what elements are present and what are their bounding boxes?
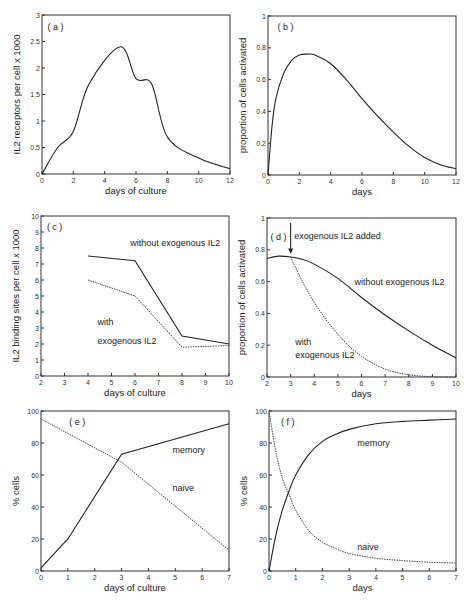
y-tick-label: 40	[31, 504, 39, 511]
x-tick-label: 10	[452, 380, 460, 387]
y-tick-label: 0.8	[255, 246, 265, 253]
y-tick-label: 100	[255, 408, 267, 415]
x-tick-label: 4	[86, 379, 90, 386]
x-axis-label: days	[352, 186, 372, 197]
y-tick-label: 0.8	[256, 44, 266, 51]
x-tick-label: 12	[226, 177, 234, 184]
series-line-naive	[269, 411, 456, 563]
x-tick-label: 2	[71, 177, 75, 184]
x-tick-label: 2	[297, 178, 301, 185]
annotation: with	[294, 337, 311, 347]
x-tick-label: 9	[430, 380, 434, 387]
series-line-without-exogenous-il2	[88, 256, 229, 344]
x-tick-label: 0	[40, 177, 44, 184]
x-axis-label: days	[352, 582, 372, 593]
y-axis-label: IL2 binding sites per cell x 1000	[10, 229, 21, 362]
panel-label: ( e )	[69, 417, 85, 427]
x-tick-label: 2	[320, 574, 324, 581]
y-tick-label: 1	[35, 357, 39, 364]
chart-panel-e: 01234567020406080100days of culture% cel…	[10, 408, 231, 594]
y-tick-label: 1	[262, 13, 266, 20]
y-tick-label: 7	[35, 261, 39, 268]
x-tick-label: 0	[266, 178, 270, 185]
annotation: naive	[173, 483, 195, 493]
y-tick-label: 2	[36, 65, 40, 72]
x-tick-label: 7	[227, 574, 231, 581]
chart-panel-d: 234567891000.20.40.60.81daysproportion o…	[236, 215, 460, 400]
y-tick-label: 80	[31, 440, 39, 447]
y-tick-label: 10	[31, 213, 39, 220]
chart-panel-b: 02468101200.20.40.60.81daysproportion of…	[237, 13, 460, 198]
x-tick-label: 7	[454, 574, 458, 581]
x-tick-label: 5	[336, 380, 340, 387]
y-tick-label: 80	[259, 440, 267, 447]
x-tick-label: 8	[180, 379, 184, 386]
x-axis-label: days of culture	[105, 185, 167, 196]
annotation: exogenous IL2	[97, 336, 156, 346]
y-tick-label: 5	[35, 293, 39, 300]
chart-panel-c: 2345678910012345678910days of cultureIL2…	[10, 213, 233, 399]
x-tick-label: 8	[165, 177, 169, 184]
x-tick-label: 3	[63, 379, 67, 386]
y-tick-label: 1.5	[30, 91, 40, 98]
panel-label: ( b )	[277, 22, 293, 32]
y-tick-label: 60	[259, 472, 267, 479]
annotation: without exogenous IL2	[129, 238, 220, 248]
x-tick-label: 10	[421, 178, 429, 185]
x-tick-label: 1	[294, 574, 298, 581]
x-tick-label: 3	[120, 574, 124, 581]
y-axis-label: IL2 receptors per cell x 1000	[11, 35, 22, 155]
panel-label: ( d )	[271, 232, 287, 242]
y-axis-label: proportion of cells activated	[236, 240, 247, 356]
x-tick-label: 4	[374, 574, 378, 581]
y-tick-label: 40	[259, 504, 267, 511]
series-line-proportion-activated	[268, 54, 456, 175]
y-tick-label: 0.4	[256, 108, 266, 115]
x-tick-label: 5	[110, 379, 114, 386]
x-tick-label: 2	[265, 380, 269, 387]
annotation: memory	[357, 438, 390, 448]
x-tick-label: 10	[195, 177, 203, 184]
x-axis-label: days of culture	[104, 387, 166, 398]
x-axis-label: days of culture	[104, 582, 166, 593]
annotation: with	[96, 317, 113, 327]
x-tick-label: 4	[329, 178, 333, 185]
y-tick-label: 100	[27, 408, 39, 415]
x-tick-label: 4	[103, 177, 107, 184]
annotation: exogenous IL2	[295, 350, 354, 360]
x-tick-label: 6	[133, 379, 137, 386]
arrowhead-icon	[288, 248, 293, 253]
x-axis-label: days	[351, 388, 371, 399]
x-tick-label: 5	[173, 574, 177, 581]
x-tick-label: 1	[66, 574, 70, 581]
chart-panel-a: 02468101200.511.522.53days of cultureIL2…	[11, 12, 234, 197]
x-tick-label: 8	[407, 380, 411, 387]
x-tick-label: 3	[289, 380, 293, 387]
panel-label: ( c )	[47, 222, 63, 232]
y-tick-label: 0	[262, 172, 266, 179]
y-tick-label: 20	[259, 536, 267, 543]
y-tick-label: 4	[35, 309, 39, 316]
annotation: naive	[357, 542, 379, 552]
x-tick-label: 0	[39, 574, 43, 581]
y-tick-label: 0.6	[256, 76, 266, 83]
y-tick-label: 3	[35, 325, 39, 332]
y-tick-label: 1	[36, 118, 40, 125]
annotation: without exogenous IL2	[353, 277, 444, 287]
plot-frame	[268, 16, 456, 175]
y-tick-label: 20	[31, 536, 39, 543]
y-tick-label: 0	[263, 568, 267, 575]
x-tick-label: 2	[39, 379, 43, 386]
annotation: exogenous IL2 added	[294, 231, 381, 241]
x-tick-label: 12	[452, 178, 460, 185]
x-tick-label: 7	[383, 380, 387, 387]
x-tick-label: 6	[427, 574, 431, 581]
y-tick-label: 0	[261, 374, 265, 381]
x-tick-label: 0	[267, 574, 271, 581]
x-tick-label: 4	[312, 380, 316, 387]
plot-frame	[42, 15, 230, 174]
x-tick-label: 6	[200, 574, 204, 581]
y-tick-label: 8	[35, 245, 39, 252]
y-tick-label: 60	[31, 472, 39, 479]
chart-panel-f: 01234567020406080100days% cells( f )memo…	[238, 408, 458, 594]
